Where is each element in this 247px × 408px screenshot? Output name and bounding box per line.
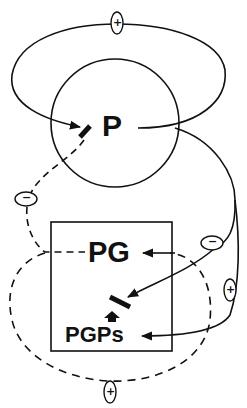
pg-label: PG bbox=[88, 236, 130, 269]
pgps-inhibition-bar bbox=[110, 297, 130, 307]
right-positive-path bbox=[142, 200, 238, 336]
pgps-label: PGPs bbox=[65, 322, 124, 348]
left-dashed-to-pg bbox=[27, 207, 85, 252]
right-negative-path bbox=[128, 128, 235, 297]
pgps-up-arrow bbox=[104, 311, 120, 322]
top-positive-sign: + bbox=[113, 16, 122, 29]
right-positive-sign: + bbox=[226, 283, 235, 296]
bottom-positive-sign: + bbox=[106, 385, 115, 398]
left-negative-sign: − bbox=[22, 191, 31, 204]
right-negative-sign: − bbox=[208, 235, 217, 248]
p-label: P bbox=[102, 109, 122, 143]
p-inhibition-bar bbox=[80, 126, 90, 137]
